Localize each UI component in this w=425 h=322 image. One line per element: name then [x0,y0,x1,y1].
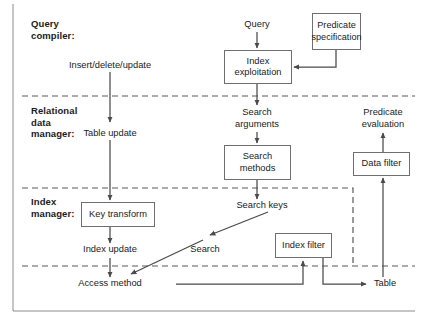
box-data-filter[interactable]: Data filter [353,152,410,176]
label-table-update: Table update [83,128,136,140]
diagram-canvas: Query compiler: Relational data manager:… [0,0,425,322]
box-index-exploitation[interactable]: Index exploitation [224,50,292,84]
connector-search-keys-diagonal [210,212,268,235]
connector-predicate-spec-to-index-exploitation [294,50,336,67]
label-search-keys: Search keys [236,200,287,212]
label-search-arguments: Search arguments [235,107,279,130]
label-index-update: Index update [83,244,137,256]
connector-access-method-to-index-filter [176,261,303,284]
label-search: Search [190,244,219,256]
label-query: Query [244,19,269,31]
box-key-transform[interactable]: Key transform [81,202,155,227]
layer-label-relational-data-manager: Relational data manager: [31,105,77,140]
connector-index-filter-to-table [323,258,366,284]
label-table: Table [374,278,396,290]
box-search-methods[interactable]: Search methods [224,145,291,180]
label-predicate-evaluation: Predicate evaluation [362,107,404,130]
layer-label-query-compiler: Query compiler: [31,18,75,41]
label-insert-delete-update: Insert/delete/update [69,60,151,72]
box-index-filter[interactable]: Index filter [275,233,332,258]
box-predicate-specification[interactable]: Predicate specification [312,13,361,50]
label-access-method: Access method [78,278,142,290]
layer-label-index-manager: Index manager: [31,196,75,219]
